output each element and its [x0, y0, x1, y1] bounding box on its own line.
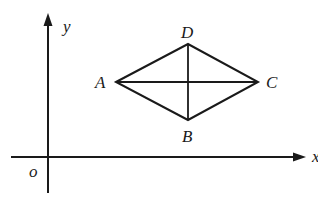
x-axis-label: x [311, 147, 318, 166]
vertex-label-a: A [94, 73, 106, 92]
origin-label: o [29, 162, 38, 181]
vertex-label-c: C [266, 73, 278, 92]
figure: y o x A B C D [0, 0, 318, 214]
vertex-label-d: D [180, 23, 194, 42]
coordinate-diagram: y o x A B C D [0, 0, 318, 214]
y-axis-arrow-icon [44, 13, 53, 26]
y-axis-label: y [61, 17, 71, 36]
vertex-label-b: B [182, 127, 193, 146]
x-axis-arrow-icon [293, 153, 306, 162]
